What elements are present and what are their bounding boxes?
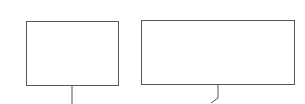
connector-right bbox=[211, 85, 218, 103]
connector-lines bbox=[0, 0, 305, 104]
